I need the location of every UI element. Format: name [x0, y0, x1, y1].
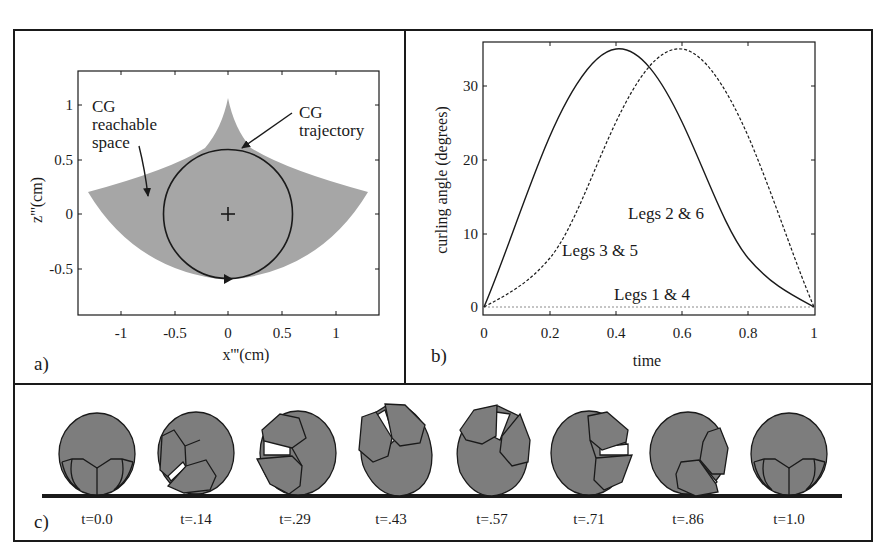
- panel-a-ytick-label: -0.5: [49, 261, 73, 277]
- annot-trajectory-line2: trajectory: [299, 121, 365, 140]
- snapshot-time-label: t=.29: [279, 511, 310, 527]
- snapshot-time-label: t=1.0: [773, 511, 804, 527]
- panel-b-xtick-label: 0.2: [541, 325, 560, 341]
- legend-legs-3-5: Legs 3 & 5: [562, 241, 638, 260]
- panel-b-xtick-label: 0.4: [607, 325, 626, 341]
- panel-a-xtick-label: 0.5: [273, 325, 292, 341]
- robot-snapshot-t86: [650, 412, 728, 496]
- panel-b-xtick-label: 0: [480, 325, 488, 341]
- panel-a-xtick-label: 0: [224, 325, 232, 341]
- panel-c: t=0.0 t=.14 t=.29 t=.43 t=.57 t=.71 t=.8…: [34, 404, 842, 533]
- snapshot-time-label: t=.71: [573, 511, 604, 527]
- panel-a-ytick-label: 1: [66, 97, 74, 113]
- panel-a-xtick-label: -1: [115, 325, 128, 341]
- panel-b: Legs 2 & 6 Legs 3 & 5 Legs 1 & 4 0 0.2 0…: [431, 42, 818, 369]
- panel-a-xtick-label: 1: [332, 325, 340, 341]
- robot-snapshot-t29: [257, 411, 336, 495]
- annot-reachable-line1: CG: [92, 97, 116, 116]
- snapshot-time-label: t=.57: [476, 511, 508, 527]
- panel-b-ytick-label: 30: [463, 78, 478, 94]
- legend-legs-1-4: Legs 1 & 4: [614, 285, 691, 304]
- figure: CG reachable space CG trajectory -1 -0.5…: [0, 0, 886, 546]
- annot-reachable-line2: reachable: [92, 115, 157, 134]
- annot-reachable-line3: space: [92, 133, 130, 152]
- panel-c-letter: c): [34, 511, 49, 533]
- panel-b-ytick-label: 0: [471, 299, 479, 315]
- panel-a: CG reachable space CG trajectory -1 -0.5…: [28, 71, 379, 375]
- robot-snapshot-t100: [751, 413, 827, 495]
- panel-b-letter: b): [431, 345, 447, 367]
- robot-snapshot-t71: [551, 411, 632, 495]
- panel-b-ytick-label: 20: [463, 152, 478, 168]
- panel-a-y-axis-title: z'''(cm): [28, 177, 46, 223]
- snapshot-time-label: t=0.0: [81, 511, 112, 527]
- panel-b-xtick-label: 0.8: [739, 325, 758, 341]
- robot-snapshot-t57: [457, 405, 530, 496]
- snapshot-time-label: t=.14: [180, 511, 212, 527]
- robot-snapshot-t0: [59, 413, 135, 495]
- robot-snapshot-t14: [158, 412, 234, 494]
- panel-a-ytick-label: 0: [66, 206, 74, 222]
- panel-b-ytick-label: 10: [463, 226, 478, 242]
- snapshot-time-label: t=.86: [672, 511, 704, 527]
- panel-b-x-axis-title: time: [633, 352, 661, 369]
- annot-trajectory-line1: CG: [299, 103, 323, 122]
- panel-a-x-axis-title: x'''(cm): [223, 346, 270, 364]
- panel-b-xtick-label: 0.6: [673, 325, 692, 341]
- robot-snapshot-t43: [359, 404, 432, 496]
- panel-a-ytick-label: 0.5: [54, 152, 73, 168]
- legend-legs-2-6: Legs 2 & 6: [628, 204, 704, 223]
- panel-b-xtick-label: 1: [810, 325, 818, 341]
- panel-a-letter: a): [34, 353, 49, 375]
- panel-b-y-axis-title: curling angle (degrees): [433, 106, 451, 253]
- snapshot-time-label: t=.43: [375, 511, 406, 527]
- panel-a-xtick-label: -0.5: [163, 325, 187, 341]
